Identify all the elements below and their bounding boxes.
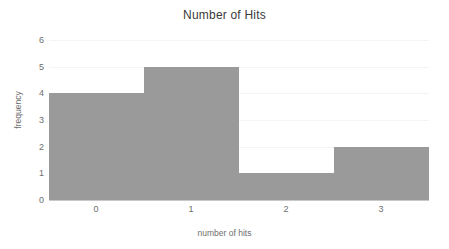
y-tick-label-2: 2	[18, 142, 44, 152]
y-axis-title: frequency	[13, 80, 23, 140]
gridline-5	[49, 67, 429, 68]
x-tick-label-3: 3	[361, 204, 401, 214]
x-tick-label-0: 0	[76, 204, 116, 214]
x-axis-line	[49, 200, 429, 201]
x-axis-title: number of hits	[0, 228, 449, 238]
bar-1[interactable]	[144, 67, 239, 200]
bar-0[interactable]	[49, 93, 144, 200]
chart-title: Number of Hits	[0, 8, 449, 22]
x-tick-label-1: 1	[171, 204, 211, 214]
y-tick-label-6: 6	[18, 35, 44, 45]
plot-area	[49, 40, 429, 200]
bar-2[interactable]	[239, 173, 334, 200]
bar-3[interactable]	[334, 147, 429, 200]
gridline-6	[49, 40, 429, 41]
x-tick-label-2: 2	[266, 204, 306, 214]
y-tick-label-1: 1	[18, 168, 44, 178]
y-tick-label-0: 0	[18, 195, 44, 205]
y-tick-label-5: 5	[18, 62, 44, 72]
histogram-chart: Number of Hits 0 1 2 3 4 5 6 0 1 2 3 num…	[0, 0, 449, 249]
